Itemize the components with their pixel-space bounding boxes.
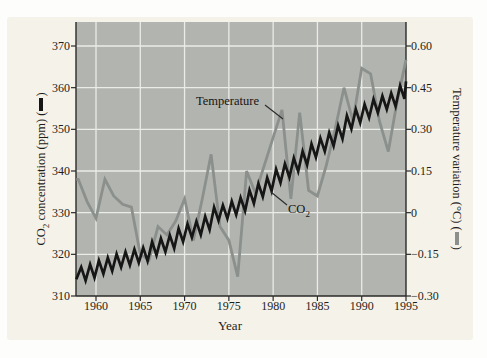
- x-tick-label: 1980: [253, 299, 293, 313]
- x-tick-label: 1990: [342, 299, 382, 313]
- x-axis-title: Year: [209, 318, 251, 334]
- y-right-tick-label: 0: [411, 206, 453, 220]
- y-right-axis-title: Temperature variation (°C) (): [449, 39, 465, 299]
- y-right-tick-label: 0.15: [411, 164, 453, 178]
- plot-area: [76, 22, 406, 296]
- y-right-tick-label: 0.30: [411, 122, 453, 136]
- x-tick-label: 1995: [386, 299, 426, 313]
- co2-line-key-dash: [39, 98, 43, 111]
- y-right-tick-label: 0.45: [411, 81, 453, 95]
- x-tick-label: 1975: [209, 299, 249, 313]
- x-tick-label: 1985: [297, 299, 337, 313]
- x-tick-label: 1965: [120, 299, 160, 313]
- y-left-title-text2: concentration (ppm) (: [34, 112, 48, 224]
- temperature-annotation: Temperature: [196, 94, 259, 108]
- figure: 3703603503403303203100.600.450.300.150−0…: [0, 0, 487, 358]
- y-right-title-text: Temperature variation (°C) (: [450, 88, 464, 231]
- y-left-title-subscript: 2: [41, 224, 51, 229]
- y-right-title-close: ): [450, 246, 464, 250]
- y-right-tick-label: 0.60: [411, 39, 453, 53]
- co2-annotation-subscript: 2: [305, 209, 310, 219]
- x-tick-label: 1960: [76, 299, 116, 313]
- y-left-title-close: ): [34, 92, 48, 96]
- temperature-line-key-dash: [455, 232, 459, 245]
- x-tick-label: 1970: [165, 299, 205, 313]
- y-right-tick-label: −0.15: [411, 247, 453, 261]
- co2-annotation-text: CO: [288, 202, 305, 216]
- y-left-axis-title: CO2 concentration (ppm) (): [33, 44, 49, 294]
- y-left-title-text: CO: [34, 228, 48, 245]
- co2-annotation: CO2: [288, 202, 310, 216]
